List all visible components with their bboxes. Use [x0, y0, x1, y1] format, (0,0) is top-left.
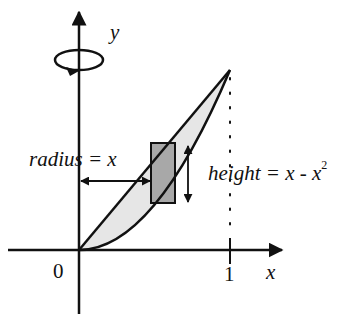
y-axis-label: y	[110, 22, 119, 43]
height-label-exponent: 2	[321, 158, 327, 172]
shell-method-diagram: y x 0 1 radius = x height = x - x2	[0, 0, 346, 320]
x-axis-label: x	[266, 262, 275, 283]
height-label-text: height = x - x	[208, 161, 321, 185]
x-tick-label-1: 1	[224, 264, 235, 285]
height-label: height = x - x2	[208, 162, 327, 184]
rotation-arrowhead-icon	[66, 67, 79, 76]
origin-label: 0	[53, 261, 64, 282]
radius-label: radius = x	[29, 149, 117, 170]
